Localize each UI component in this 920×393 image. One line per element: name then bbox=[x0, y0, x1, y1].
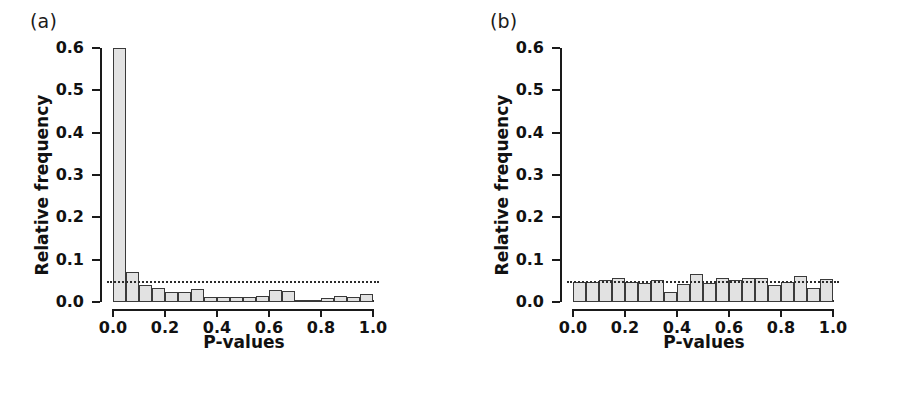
x-axis-tick bbox=[216, 309, 218, 317]
histogram-bar bbox=[664, 292, 677, 302]
histogram-bar bbox=[703, 283, 716, 302]
x-axis-tick-label: 0.0 bbox=[543, 320, 603, 336]
y-axis-tick bbox=[92, 301, 100, 303]
histogram-bar bbox=[586, 282, 599, 302]
histogram-bar bbox=[360, 294, 373, 302]
histogram-bar bbox=[638, 283, 651, 302]
reference-line-005 bbox=[107, 281, 379, 283]
y-axis-tick-label: 0.6 bbox=[38, 40, 84, 56]
x-axis-tick bbox=[780, 309, 782, 317]
histogram-bar bbox=[599, 280, 612, 302]
y-axis-tick bbox=[552, 301, 560, 303]
histogram-bar bbox=[113, 48, 126, 302]
histogram-bar bbox=[139, 285, 152, 302]
histogram-bar bbox=[781, 282, 794, 302]
y-axis-tick-label: 0.5 bbox=[498, 82, 544, 98]
histogram-bar bbox=[178, 292, 191, 302]
histogram-bar bbox=[807, 288, 820, 302]
histogram-bar bbox=[573, 282, 586, 302]
x-axis-tick bbox=[728, 309, 730, 317]
histogram-bar bbox=[126, 272, 139, 302]
x-axis-tick-label: 1.0 bbox=[343, 320, 403, 336]
histogram-bar bbox=[282, 291, 295, 302]
x-axis-tick-label: 0.2 bbox=[595, 320, 655, 336]
x-axis-tick bbox=[832, 309, 834, 317]
y-axis-tick bbox=[92, 216, 100, 218]
y-axis-tick-label: 0.4 bbox=[498, 125, 544, 141]
y-axis-tick-label: 0.3 bbox=[38, 167, 84, 183]
y-axis-tick-label: 0.4 bbox=[38, 125, 84, 141]
x-axis-tick bbox=[572, 309, 574, 317]
x-axis-tick-label: 0.6 bbox=[239, 320, 299, 336]
x-axis-tick bbox=[268, 309, 270, 317]
panel-a-x-axis-line bbox=[113, 309, 374, 311]
histogram-bar bbox=[794, 276, 807, 302]
y-axis-tick bbox=[552, 89, 560, 91]
histogram-bar bbox=[230, 297, 243, 303]
panel-b-x-axis-line bbox=[573, 309, 834, 311]
panel-b-label: (b) bbox=[490, 10, 518, 32]
y-axis-tick-label: 0.0 bbox=[38, 294, 84, 310]
histogram-bar bbox=[729, 280, 742, 302]
histogram-bar bbox=[347, 297, 360, 302]
reference-line-005 bbox=[567, 281, 839, 283]
y-axis-tick bbox=[92, 132, 100, 134]
panel-b: (b) Relative frequency P-values 0.60.50.… bbox=[460, 0, 920, 393]
histogram-bar bbox=[677, 284, 690, 302]
y-axis-tick-label: 0.3 bbox=[498, 167, 544, 183]
y-axis-tick-label: 0.1 bbox=[38, 252, 84, 268]
x-axis-tick-label: 0.4 bbox=[647, 320, 707, 336]
x-axis-tick bbox=[624, 309, 626, 317]
panel-b-y-axis-line bbox=[560, 48, 562, 302]
histogram-bar bbox=[321, 298, 334, 302]
panel-a-plot-area bbox=[113, 48, 373, 302]
x-axis-tick bbox=[320, 309, 322, 317]
y-axis-tick bbox=[552, 216, 560, 218]
histogram-bar bbox=[334, 296, 347, 302]
histogram-bar bbox=[690, 274, 703, 302]
panel-a-y-axis-line bbox=[100, 48, 102, 302]
y-axis-tick-label: 0.1 bbox=[498, 252, 544, 268]
y-axis-tick bbox=[552, 174, 560, 176]
histogram-bar bbox=[651, 280, 664, 302]
histogram-bar bbox=[308, 300, 321, 302]
y-axis-tick bbox=[92, 47, 100, 49]
y-axis-tick-label: 0.6 bbox=[498, 40, 544, 56]
histogram-bar bbox=[217, 297, 230, 303]
panel-b-plot-area bbox=[573, 48, 833, 302]
histogram-bar bbox=[165, 292, 178, 302]
y-axis-tick bbox=[552, 47, 560, 49]
y-axis-tick-label: 0.2 bbox=[498, 209, 544, 225]
x-axis-tick bbox=[164, 309, 166, 317]
histogram-bar bbox=[152, 288, 165, 302]
x-axis-tick bbox=[676, 309, 678, 317]
y-axis-tick-label: 0.5 bbox=[38, 82, 84, 98]
histogram-bar bbox=[256, 296, 269, 302]
histogram-bar bbox=[269, 290, 282, 302]
x-axis-tick bbox=[372, 309, 374, 317]
histogram-bar bbox=[191, 289, 204, 302]
histogram-bar bbox=[295, 300, 308, 302]
x-axis-tick-label: 1.0 bbox=[803, 320, 863, 336]
y-axis-tick bbox=[552, 259, 560, 261]
figure-two-histograms: (a) Relative frequency P-values 0.60.50.… bbox=[0, 0, 920, 393]
panel-a: (a) Relative frequency P-values 0.60.50.… bbox=[0, 0, 460, 393]
y-axis-tick-label: 0.2 bbox=[38, 209, 84, 225]
x-axis-tick-label: 0.8 bbox=[291, 320, 351, 336]
x-axis-tick bbox=[112, 309, 114, 317]
histogram-bar bbox=[768, 285, 781, 302]
x-axis-tick-label: 0.6 bbox=[699, 320, 759, 336]
histogram-bar bbox=[243, 297, 256, 302]
x-axis-tick-label: 0.8 bbox=[751, 320, 811, 336]
y-axis-tick bbox=[92, 89, 100, 91]
y-axis-tick bbox=[552, 132, 560, 134]
x-axis-tick-label: 0.0 bbox=[83, 320, 143, 336]
panel-a-label: (a) bbox=[30, 10, 57, 32]
histogram-bar bbox=[625, 282, 638, 302]
y-axis-tick bbox=[92, 259, 100, 261]
x-axis-tick-label: 0.4 bbox=[187, 320, 247, 336]
histogram-bar bbox=[204, 297, 217, 302]
y-axis-tick bbox=[92, 174, 100, 176]
y-axis-tick-label: 0.0 bbox=[498, 294, 544, 310]
x-axis-tick-label: 0.2 bbox=[135, 320, 195, 336]
